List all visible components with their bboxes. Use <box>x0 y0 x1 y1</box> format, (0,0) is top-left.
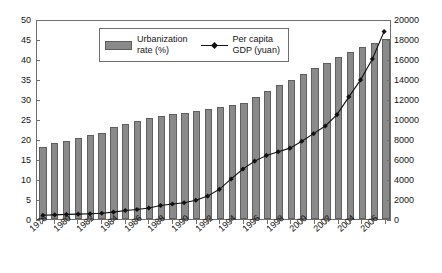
left-tick-mark-5 <box>36 200 40 201</box>
gdp-marker-1997 <box>264 153 269 158</box>
left-tick-mark-45 <box>36 40 40 41</box>
gdp-marker-1985 <box>123 208 128 213</box>
x-tick-mark-1993 <box>219 220 220 224</box>
x-tick-mark-2007 <box>385 220 386 224</box>
right-tick-mark-18000 <box>387 40 391 41</box>
x-tick-mark-1988 <box>160 220 161 224</box>
gdp-marker-1986 <box>134 207 139 212</box>
left-tick-mark-40 <box>36 60 40 61</box>
x-tick-mark-2000 <box>302 220 303 224</box>
x-tick-mark-1985 <box>125 220 126 224</box>
gdp-marker-1999 <box>287 146 292 151</box>
right-axis-tick-18000: 18000 <box>394 36 419 45</box>
x-tick-mark-1980 <box>66 220 67 224</box>
right-tick-mark-8000 <box>387 140 391 141</box>
legend-label-gdp: Per capita GDP (yuan) <box>233 34 280 56</box>
right-axis: 0200040006000800010000120001400016000180… <box>394 20 440 220</box>
right-tick-mark-6000 <box>387 160 391 161</box>
gdp-marker-1998 <box>276 149 281 154</box>
gdp-marker-1992 <box>205 194 210 199</box>
right-tick-mark-10000 <box>387 120 391 121</box>
gdp-marker-1988 <box>158 203 163 208</box>
left-axis-tick-15: 15 <box>21 156 31 165</box>
x-tick-mark-1991 <box>196 220 197 224</box>
x-tick-mark-2003 <box>338 220 339 224</box>
x-tick-mark-2001 <box>314 220 315 224</box>
x-tick-mark-1996 <box>255 220 256 224</box>
right-tick-mark-4000 <box>387 180 391 181</box>
x-tick-mark-1984 <box>113 220 114 224</box>
left-axis-tick-35: 35 <box>21 76 31 85</box>
legend-bar-swatch-icon <box>105 41 132 50</box>
chart-legend: Urbanization rate (%) Per capita GDP (yu… <box>99 28 289 62</box>
x-tick-mark-1987 <box>148 220 149 224</box>
gdp-marker-1987 <box>146 205 151 210</box>
legend-entry-gdp: Per capita GDP (yuan) <box>201 34 280 56</box>
left-tick-mark-25 <box>36 120 40 121</box>
right-axis-tick-8000: 8000 <box>394 136 414 145</box>
right-axis-tick-14000: 14000 <box>394 76 419 85</box>
gdp-marker-1981 <box>76 212 81 217</box>
right-tick-mark-14000 <box>387 80 391 81</box>
x-tick-mark-2005 <box>361 220 362 224</box>
left-axis-tick-25: 25 <box>21 116 31 125</box>
left-axis-tick-50: 50 <box>21 16 31 25</box>
x-tick-mark-1995 <box>243 220 244 224</box>
right-tick-mark-12000 <box>387 100 391 101</box>
x-tick-mark-1998 <box>279 220 280 224</box>
gdp-marker-1983 <box>99 211 104 216</box>
gdp-marker-1991 <box>193 198 198 203</box>
x-tick-mark-1982 <box>89 220 90 224</box>
left-axis-tick-30: 30 <box>21 96 31 105</box>
gdp-marker-2006 <box>370 56 375 61</box>
left-tick-mark-15 <box>36 160 40 161</box>
gdp-marker-1979 <box>52 212 57 217</box>
right-axis-tick-20000: 20000 <box>394 16 419 25</box>
left-axis-tick-10: 10 <box>21 176 31 185</box>
left-tick-mark-20 <box>36 140 40 141</box>
right-tick-mark-2000 <box>387 200 391 201</box>
right-axis-tick-16000: 16000 <box>394 56 419 65</box>
x-tick-mark-1994 <box>231 220 232 224</box>
x-tick-mark-1990 <box>184 220 185 224</box>
left-axis: 05101520253035404550 <box>0 20 31 220</box>
right-axis-tick-2000: 2000 <box>394 196 414 205</box>
right-tick-mark-20000 <box>387 20 391 21</box>
right-axis-tick-6000: 6000 <box>394 156 414 165</box>
x-tick-mark-2002 <box>326 220 327 224</box>
x-tick-mark-2004 <box>350 220 351 224</box>
x-tick-mark-1992 <box>208 220 209 224</box>
left-tick-mark-10 <box>36 180 40 181</box>
right-axis-tick-10000: 10000 <box>394 116 419 125</box>
x-tick-mark-1978 <box>42 220 43 224</box>
left-tick-mark-0 <box>36 220 40 221</box>
x-axis: 1978198019821984198619881990199219941996… <box>0 220 442 273</box>
x-tick-mark-1979 <box>54 220 55 224</box>
left-tick-mark-50 <box>36 20 40 21</box>
left-axis-tick-20: 20 <box>21 136 31 145</box>
left-axis-tick-5: 5 <box>26 196 31 205</box>
legend-entry-urbanization: Urbanization rate (%) <box>105 34 188 56</box>
right-axis-tick-4000: 4000 <box>394 176 414 185</box>
left-axis-tick-45: 45 <box>21 36 31 45</box>
right-tick-mark-0 <box>387 220 391 221</box>
left-axis-tick-40: 40 <box>21 56 31 65</box>
x-tick-mark-1999 <box>290 220 291 224</box>
right-tick-mark-16000 <box>387 60 391 61</box>
legend-line-diamond-marker-icon <box>201 41 228 50</box>
gdp-marker-2007 <box>382 29 387 34</box>
chart-figure: 05101520253035404550 0200040006000800010… <box>0 0 442 273</box>
x-tick-mark-2006 <box>373 220 374 224</box>
x-tick-mark-1997 <box>267 220 268 224</box>
x-axis-label-1978: 1978 <box>28 214 49 234</box>
x-tick-mark-1989 <box>172 220 173 224</box>
x-tick-mark-1981 <box>77 220 78 224</box>
legend-label-urbanization: Urbanization rate (%) <box>137 34 188 56</box>
right-axis-tick-12000: 12000 <box>394 96 419 105</box>
gdp-marker-1989 <box>170 201 175 206</box>
left-tick-mark-35 <box>36 80 40 81</box>
x-tick-mark-1986 <box>137 220 138 224</box>
left-tick-mark-30 <box>36 100 40 101</box>
x-tick-mark-1983 <box>101 220 102 224</box>
gdp-marker-1990 <box>181 200 186 205</box>
